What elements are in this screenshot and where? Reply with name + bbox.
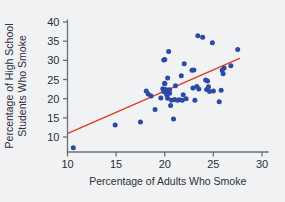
y-tick-label-10: 10 — [47, 131, 59, 143]
data-point — [210, 40, 215, 45]
data-point — [206, 84, 211, 89]
y-tick-label-30: 30 — [47, 54, 59, 66]
data-point — [221, 71, 226, 76]
data-point — [149, 93, 154, 98]
data-point — [222, 66, 227, 71]
x-tick-label-25: 25 — [207, 158, 219, 170]
data-point — [138, 120, 143, 125]
x-tick-label-10: 10 — [61, 158, 73, 170]
x-tick-label-15: 15 — [110, 158, 122, 170]
data-point — [168, 103, 173, 108]
data-point — [162, 81, 167, 86]
data-point — [153, 107, 158, 112]
y-tick-label-15: 15 — [47, 112, 59, 124]
data-point — [173, 83, 178, 88]
data-point — [162, 57, 167, 62]
data-point — [166, 49, 171, 54]
data-point — [179, 73, 184, 78]
y-tick-label-25: 25 — [47, 74, 59, 86]
data-point — [228, 63, 233, 68]
x-axis-title: Percentage of Adults Who Smoke — [89, 175, 246, 187]
y-tick-label-35: 35 — [47, 35, 59, 47]
data-point — [171, 116, 176, 121]
data-point — [158, 95, 163, 100]
data-point — [195, 33, 200, 38]
data-point — [167, 91, 172, 96]
y-axis-title-line-1: Percentage of High School — [3, 24, 15, 149]
x-tick-label-30: 30 — [256, 158, 268, 170]
y-tick-label-20: 20 — [47, 93, 59, 105]
data-point — [196, 87, 201, 92]
data-point — [165, 75, 170, 80]
data-point — [200, 35, 205, 40]
data-point — [217, 99, 222, 104]
chart-canvas: 101520253035401015202530 Percentage of A… — [0, 0, 285, 202]
y-axis-title-line-2: Students Who Smoke — [16, 35, 28, 137]
x-tick-label-20: 20 — [159, 158, 171, 170]
data-point — [235, 47, 240, 52]
data-point — [219, 88, 224, 93]
data-point — [184, 96, 189, 101]
data-point — [211, 89, 216, 94]
y-tick-label-40: 40 — [47, 16, 59, 28]
data-point — [205, 79, 210, 84]
data-point — [191, 67, 196, 72]
data-point — [182, 61, 187, 66]
scatter-plot-figure: 101520253035401015202530 Percentage of A… — [0, 0, 285, 202]
data-point — [71, 145, 76, 150]
data-point — [192, 98, 197, 103]
data-point — [113, 123, 118, 128]
